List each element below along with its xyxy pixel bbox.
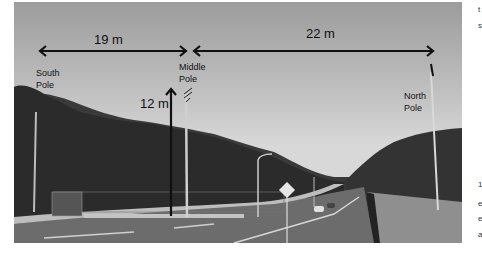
side-text-fragment: a bbox=[478, 230, 482, 240]
side-text-fragment: s bbox=[478, 21, 482, 31]
dimension-middle-to-north: 22 m bbox=[306, 27, 335, 41]
dimension-middle-height: 12 m bbox=[140, 97, 169, 111]
middle-pole-label: Middle Pole bbox=[179, 61, 206, 85]
road-photo bbox=[14, 2, 462, 243]
dimension-south-to-middle: 19 m bbox=[94, 33, 123, 47]
south-pole-label: South Pole bbox=[36, 67, 60, 91]
scene-illustration bbox=[14, 2, 462, 243]
side-text-fragment: t bbox=[478, 5, 480, 15]
north-pole-label: North Pole bbox=[404, 90, 426, 114]
side-text-fragment: e bbox=[478, 214, 482, 224]
side-text-fragment: e bbox=[478, 199, 482, 209]
side-text-fragment: 1 bbox=[478, 180, 482, 190]
